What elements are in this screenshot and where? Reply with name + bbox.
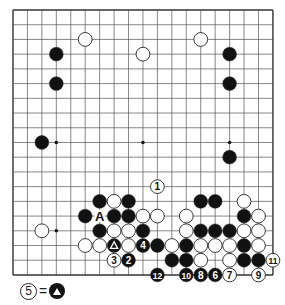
- white-stone: [194, 239, 208, 253]
- black-stone: [223, 150, 237, 164]
- white-stone: [223, 253, 237, 267]
- equals-sign: =: [39, 283, 47, 299]
- black-stone: [208, 224, 222, 238]
- black-stone: [194, 224, 208, 238]
- black-stone: [78, 209, 92, 223]
- white-stone: [136, 47, 150, 61]
- triangle-icon: [53, 288, 61, 295]
- white-stone: [93, 239, 107, 253]
- black-stone: [194, 194, 208, 208]
- white-stone: [78, 239, 92, 253]
- black-stone: 8: [194, 268, 208, 282]
- white-stone: [208, 239, 222, 253]
- white-stone: 1: [151, 180, 165, 194]
- move-number-label: 4: [140, 240, 146, 251]
- black-stone: 10: [179, 268, 193, 282]
- black-stone: 4: [136, 239, 150, 253]
- black-stone: [136, 224, 150, 238]
- white-stone: [165, 239, 179, 253]
- black-stone: [208, 194, 222, 208]
- white-stone: 11: [266, 253, 280, 267]
- black-stone: [223, 77, 237, 91]
- black-stone: [237, 253, 251, 267]
- move-number-label: 6: [212, 270, 218, 281]
- black-stone: [151, 239, 165, 253]
- black-stone: [49, 77, 63, 91]
- move-number-label: 10: [182, 271, 192, 281]
- white-stone: 7: [223, 268, 237, 282]
- move-number-label: 1: [155, 181, 161, 192]
- black-stone-triangle-icon: [49, 283, 65, 299]
- black-stone: [179, 253, 193, 267]
- move-number-label: 3: [111, 255, 117, 266]
- white-stone: [237, 194, 251, 208]
- move-number: 5: [25, 284, 32, 298]
- move-caption: 5 =: [20, 281, 65, 301]
- white-stone: [136, 209, 150, 223]
- black-stone: [223, 47, 237, 61]
- black-stone: [49, 47, 63, 61]
- white-stone: [237, 224, 251, 238]
- star-point: [55, 141, 59, 145]
- white-stone: [179, 224, 193, 238]
- go-board: 42121086131179A: [0, 0, 285, 285]
- black-stone: [179, 239, 193, 253]
- black-stone: [252, 253, 266, 267]
- black-stone: [93, 224, 107, 238]
- white-stone: 3: [107, 253, 121, 267]
- black-stone: [122, 209, 136, 223]
- black-stone: [93, 194, 107, 208]
- move-number-label: 8: [198, 270, 204, 281]
- move-number-label: 12: [153, 271, 163, 281]
- black-stone: 2: [122, 253, 136, 267]
- white-stone: [107, 194, 121, 208]
- white-stone: [78, 33, 92, 47]
- black-stone: [223, 224, 237, 238]
- move-number-label: 9: [256, 270, 262, 281]
- white-stone: 9: [252, 268, 266, 282]
- black-stone: [122, 194, 136, 208]
- white-stone: [151, 209, 165, 223]
- black-stone: [165, 253, 179, 267]
- white-stone: [194, 33, 208, 47]
- black-stone: [35, 136, 49, 150]
- black-stone: [107, 239, 121, 253]
- move-5-marker: 5: [20, 283, 37, 300]
- white-stone: [223, 239, 237, 253]
- black-stone: [237, 209, 251, 223]
- black-stone: [107, 209, 121, 223]
- white-stone: [252, 239, 266, 253]
- white-stone: [122, 224, 136, 238]
- move-number-label: 11: [268, 256, 277, 266]
- star-point: [55, 229, 59, 233]
- move-number-label: 7: [227, 270, 233, 281]
- white-stone: [252, 209, 266, 223]
- white-stone: [35, 224, 49, 238]
- star-point: [141, 141, 145, 145]
- white-stone: [179, 209, 193, 223]
- black-stone: 6: [208, 268, 222, 282]
- black-stone: 12: [151, 268, 165, 282]
- white-stone: [252, 224, 266, 238]
- point-label-A: A: [95, 209, 105, 224]
- star-point: [228, 141, 232, 145]
- white-stone: [122, 239, 136, 253]
- white-stone: [194, 253, 208, 267]
- move-number-label: 2: [126, 255, 132, 266]
- black-stone: [237, 239, 251, 253]
- white-stone: [107, 224, 121, 238]
